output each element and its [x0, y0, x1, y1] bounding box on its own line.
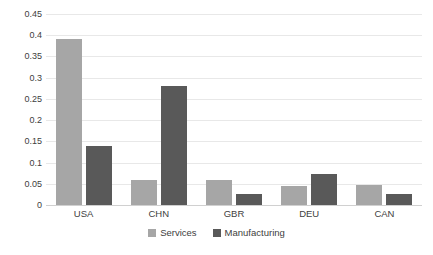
legend-label: Services	[160, 228, 196, 238]
y-axis-tick-label: 0.1	[0, 158, 42, 167]
legend-item-services[interactable]: Services	[148, 228, 196, 238]
x-axis-tick-label: DEU	[272, 207, 347, 223]
bar-groups	[46, 14, 422, 205]
x-axis: USACHNGBRDEUCAN	[46, 207, 422, 223]
gridline	[46, 205, 422, 206]
x-axis-tick-label: CAN	[347, 207, 422, 223]
bar-usa-manufacturing	[86, 146, 112, 205]
y-axis-tick-label: 0.45	[0, 10, 42, 19]
legend: ServicesManufacturing	[0, 228, 433, 238]
y-axis-tick-label: 0	[0, 201, 42, 210]
y-axis-tick-label: 0.4	[0, 31, 42, 40]
bar-group	[272, 14, 347, 205]
legend-swatch-icon	[213, 229, 221, 237]
x-axis-tick-label: USA	[46, 207, 121, 223]
bar-can-manufacturing	[386, 194, 412, 205]
legend-swatch-icon	[148, 229, 156, 237]
bar-deu-manufacturing	[311, 174, 337, 205]
bar-chn-manufacturing	[161, 86, 187, 205]
y-axis-tick-label: 0.05	[0, 179, 42, 188]
bar-group	[196, 14, 271, 205]
y-axis-tick-label: 0.15	[0, 137, 42, 146]
y-axis-tick-label: 0.25	[0, 94, 42, 103]
y-axis-tick-label: 0.3	[0, 73, 42, 82]
bar-group	[347, 14, 422, 205]
legend-label: Manufacturing	[225, 228, 285, 238]
y-axis-tick-label: 0.2	[0, 116, 42, 125]
y-axis: 0.450.40.350.30.250.20.150.10.050	[0, 14, 42, 205]
bar-chart: 0.450.40.350.30.250.20.150.10.050 USACHN…	[0, 0, 433, 255]
x-axis-tick-label: CHN	[121, 207, 196, 223]
bar-group	[121, 14, 196, 205]
bar-deu-services	[281, 186, 307, 205]
legend-item-manufacturing[interactable]: Manufacturing	[213, 228, 285, 238]
y-axis-tick-label: 0.35	[0, 52, 42, 61]
bar-gbr-manufacturing	[236, 194, 262, 205]
bar-can-services	[356, 185, 382, 205]
plot-area	[46, 14, 422, 205]
bar-usa-services	[56, 39, 82, 205]
x-axis-tick-label: GBR	[196, 207, 271, 223]
bar-group	[46, 14, 121, 205]
bar-chn-services	[131, 180, 157, 205]
bar-gbr-services	[206, 180, 232, 205]
